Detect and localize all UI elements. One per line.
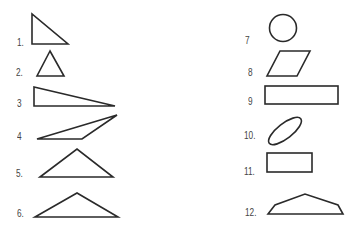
shape-12-pentagon (268, 194, 343, 214)
shape-5-isosceles-triangle (40, 149, 113, 177)
shape-9-long-rectangle (265, 86, 338, 104)
label-11: 11. (244, 165, 255, 177)
label-5: 5. (16, 167, 23, 179)
label-10: 10. (244, 129, 255, 141)
shape-7-circle (270, 15, 297, 42)
label-8: 8 (248, 66, 253, 78)
shape-6-wide-triangle (35, 193, 118, 217)
label-3: 3 (17, 97, 22, 109)
shapes-canvas (0, 0, 358, 226)
label-7: 7 (245, 34, 250, 46)
shape-8-parallelogram (267, 51, 310, 76)
label-12: 12. (245, 206, 256, 218)
label-2: 2. (16, 66, 23, 78)
shape-3-long-right-triangle (34, 87, 115, 106)
shape-2-equilateral-triangle (37, 51, 64, 76)
label-1: 1. (17, 36, 24, 48)
shape-4-obtuse-triangle (37, 115, 117, 139)
shape-1-right-triangle (32, 14, 68, 44)
label-6: 6. (17, 207, 24, 219)
label-4: 4 (17, 130, 22, 142)
shape-11-rectangle (267, 153, 312, 172)
label-9: 9 (248, 95, 253, 107)
shape-10-ellipse (265, 113, 306, 149)
